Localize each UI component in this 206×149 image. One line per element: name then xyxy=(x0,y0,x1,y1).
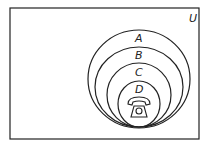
set-d-label: D xyxy=(135,83,143,96)
universe-rectangle xyxy=(10,8,199,139)
universe-label: U xyxy=(189,12,197,25)
set-a-label: A xyxy=(134,32,143,45)
venn-diagram: U A B C D xyxy=(0,0,206,149)
set-c-label: C xyxy=(135,66,143,79)
set-b-label: B xyxy=(135,49,143,62)
